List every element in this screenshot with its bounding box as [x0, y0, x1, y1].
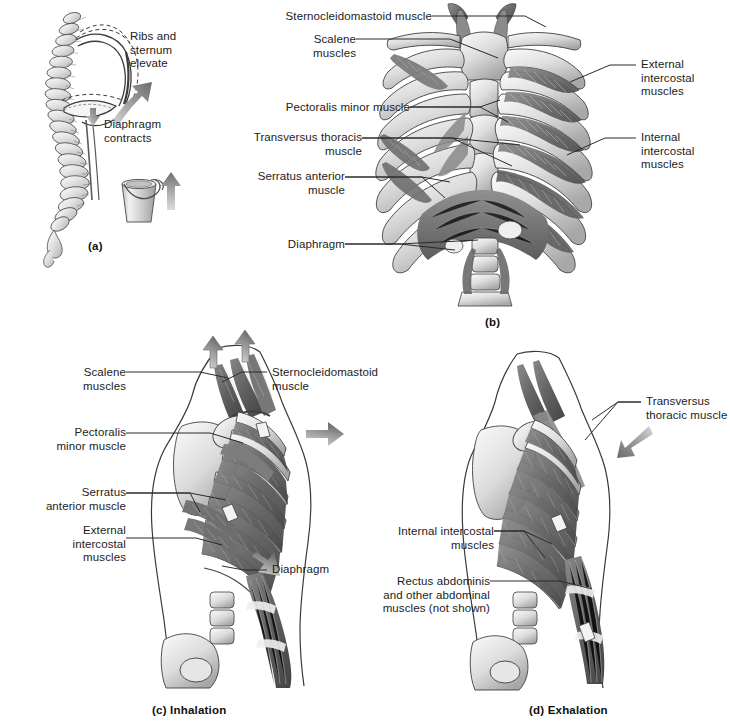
- leader-transversus-d1: [592, 402, 641, 420]
- leader-transversus-d2: [585, 402, 641, 440]
- pectoralis-minor-muscle: [220, 444, 274, 482]
- label-scalene-muscles-c: Scalene muscles: [21, 366, 126, 393]
- leader-internal-intercostal-d2: [494, 531, 545, 558]
- leader-pectoralis-minor-b2: [410, 107, 508, 122]
- leader-diaphragm-b2: [345, 240, 478, 244]
- diaphragm-dome: [64, 101, 116, 117]
- pelvis: [470, 636, 528, 690]
- ribs: [497, 420, 581, 609]
- leader-internal-intercostal-d1: [494, 531, 552, 544]
- caption-panel-b: (b): [485, 316, 500, 328]
- sacrum: [47, 230, 62, 258]
- label-diaphragm-c: Diaphragm: [272, 563, 329, 577]
- torso-silhouette: [152, 345, 311, 686]
- scapula: [174, 422, 237, 516]
- leader-diaphragm-b1: [345, 244, 455, 250]
- leader-serratus-b2: [345, 177, 445, 198]
- ribs-right: [489, 49, 592, 273]
- chest-expansion-arrow: [306, 422, 344, 446]
- torso-silhouette: [462, 351, 610, 688]
- rib-cage-outline: [76, 34, 131, 125]
- leader-internal-intercostal-b: [567, 138, 636, 155]
- leader-transversus-b2: [362, 138, 512, 166]
- leader-transversus-b1: [362, 138, 520, 145]
- leader-serratus-c1: [126, 493, 226, 500]
- scapula: [473, 426, 536, 520]
- esophageal-opening: [445, 239, 463, 253]
- lumbar-vertebrae: [513, 592, 537, 644]
- leader-serratus-b1: [345, 177, 450, 182]
- label-transversus-thoracis-muscle-d: Transversus thoracic muscle: [646, 395, 727, 422]
- caption-panel-c: (c) Inhalation: [152, 704, 226, 716]
- diaphragm-crura: [462, 248, 509, 294]
- leader-scalene-b: [356, 39, 498, 58]
- label-internal-intercostal-muscles-d: Internal intercostal muscles: [374, 525, 494, 552]
- external-intercostal-muscles: [498, 67, 586, 184]
- sternum: [460, 32, 508, 221]
- rib-motion-tabs: [222, 422, 270, 522]
- lumbar-vertebrae: [458, 238, 512, 306]
- label-pectoralis-minor-muscle-b: Pectoralis minor muscle: [238, 101, 410, 115]
- abdominal-muscle-band: [565, 556, 604, 684]
- label-scalene-muscles-b: Scalene muscles: [268, 33, 356, 60]
- label-external-intercostal-muscles-c: External intercostal muscles: [26, 524, 126, 565]
- caption-panel-d: (d) Exhalation: [529, 704, 608, 716]
- clavicles: [387, 33, 581, 50]
- label-internal-intercostal-muscles-b: Internal intercostal muscles: [641, 131, 695, 172]
- coccyx: [44, 250, 54, 267]
- leader-sternocleidomastoid-b: [432, 16, 546, 27]
- label-serratus-anterior-muscle-c: Serratus anterior muscle: [6, 486, 126, 513]
- internal-intercostal-muscles: [497, 428, 579, 609]
- label-sternocleidomastoid-muscle-b: Sternocleidomastoid muscle: [268, 10, 432, 24]
- label-diaphragm-b: Diaphragm: [238, 238, 345, 252]
- label-pectoralis-minor-muscle-c: Pectoralis minor muscle: [11, 426, 126, 453]
- diaphragm-contract-arrow: [86, 108, 100, 126]
- scalene-muscles: [214, 358, 264, 420]
- internal-intercostal-muscles: [492, 170, 584, 253]
- sternum: [124, 52, 128, 104]
- humeral-head: [508, 415, 558, 458]
- label-rectus-abdominis-muscles-d: Rectus abdominis and other abdominal mus…: [370, 575, 490, 616]
- pectoralis-minor-muscle: [390, 54, 448, 90]
- scalene-muscles: [457, 10, 508, 44]
- leader-diaphragm-c: [222, 566, 267, 570]
- ribs-left: [376, 49, 479, 273]
- humeral-head: [208, 409, 260, 454]
- pelvis: [161, 634, 219, 688]
- leader-scalene-c: [126, 372, 228, 378]
- label-external-intercostal-muscles-b: External intercostal muscles: [641, 58, 695, 99]
- label-serratus-anterior-muscle-b: Serratus anterior muscle: [238, 170, 345, 197]
- clavicle: [232, 412, 270, 417]
- label-transversus-thoracis-muscle-b: Transversus thoracis muscle: [238, 131, 362, 158]
- chest-compression-arrow: [617, 426, 653, 458]
- leader-serratus-c2: [126, 493, 200, 512]
- scalene-elevation-arrow-right: [235, 330, 255, 362]
- vertebral-column: [44, 10, 89, 234]
- diaphragm: [246, 572, 291, 688]
- caval-opening: [498, 221, 522, 239]
- leader-external-intercostal-b: [570, 65, 636, 82]
- leader-external-intercostal-c: [126, 538, 222, 545]
- rib-motion-tabs: [551, 514, 595, 642]
- respiratory-muscles-figure: Ribs and sternum elevate Diaphragm contr…: [0, 0, 730, 727]
- transversus-thoracis-muscle: [533, 410, 585, 492]
- caption-panel-a: (a): [88, 240, 103, 252]
- sternocleidomastoid-muscles: [448, 4, 516, 26]
- label-diaphragm-contracts: Diaphragm contracts: [104, 118, 161, 145]
- lumbar-vertebrae: [210, 592, 234, 644]
- serratus-anterior-muscle: [182, 500, 238, 556]
- bucket-handle-analogy: [122, 172, 181, 222]
- label-ribs-and-sternum-elevate: Ribs and sternum elevate: [130, 30, 176, 71]
- leader-pectoralis-minor-b1: [410, 100, 500, 107]
- bucket-handle: [124, 180, 160, 199]
- diaphragm-strand: [86, 120, 92, 200]
- neck-muscles: [517, 360, 565, 426]
- leader-sternocleidomastoid-c: [222, 372, 267, 382]
- label-sternocleidomastoid-muscle-c: Sternocleidomastoid muscle: [272, 366, 378, 393]
- scalene-elevation-arrow-left: [203, 336, 223, 368]
- elevated-ribcage-dashed: [62, 25, 138, 104]
- diaphragm: [417, 190, 549, 260]
- leader-pectoralis-minor-c: [126, 433, 243, 443]
- panel-b-artwork: [330, 2, 650, 317]
- transversus-thoracis-muscle: [434, 112, 468, 176]
